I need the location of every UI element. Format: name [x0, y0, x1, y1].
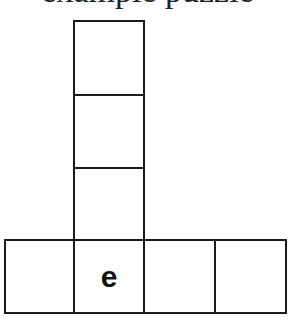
grid-cell-col-3[interactable] [73, 167, 145, 242]
grid-cell-row-2[interactable]: e [73, 239, 145, 314]
grid-cell-row-4[interactable] [214, 239, 287, 314]
grid-cell-row-1[interactable] [4, 239, 75, 314]
puzzle-title: example puzzle [0, 0, 295, 8]
grid-cell-row-3[interactable] [143, 239, 216, 314]
grid-cell-col-1[interactable] [73, 20, 145, 97]
grid-cell-col-2[interactable] [73, 94, 145, 170]
